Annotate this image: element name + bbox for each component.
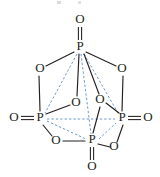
atom-label-o-right: O	[143, 109, 152, 124]
bond-ptop-ocl	[77, 54, 79, 96]
atom-label-p-right: P	[118, 109, 125, 124]
scan-artifact-mark-left	[57, 1, 61, 4]
figure-canvas: P P P P O O O O O O O O O O	[0, 0, 160, 177]
bond-our-pright	[122, 76, 123, 111]
bond-pfront-obr	[98, 144, 110, 147]
bond-ocl-pleft	[46, 105, 70, 114]
atom-label-o-center-left: O	[71, 94, 80, 109]
p4o10-structure-diagram: P P P P O O O O O O O O O O	[0, 0, 160, 177]
bond-oul-pleft	[39, 76, 40, 111]
atom-label-o-upper-left: O	[35, 60, 44, 75]
bond-ocr-pright	[106, 103, 119, 113]
scan-artifact-mark-right	[78, 1, 81, 4]
atom-label-p-left: P	[36, 109, 43, 124]
dashed-edge-front-right	[99, 123, 116, 139]
atom-label-o-left: O	[9, 109, 18, 124]
atom-label-p-top: P	[76, 38, 83, 53]
bond-ptop-our	[86, 52, 116, 66]
dashed-cage-edge-group	[45, 54, 118, 139]
atom-label-o-bottom-right: O	[109, 138, 118, 153]
atom-label-o-bottom-left: O	[51, 132, 60, 147]
bond-ptop-ocr	[84, 54, 99, 94]
atom-label-p-front: P	[88, 131, 95, 146]
atom-label-o-top: O	[75, 11, 84, 26]
dashed-edge-top-front	[81, 54, 91, 134]
atom-label-o-upper-right: O	[117, 60, 126, 75]
atom-label-group: P P P P O O O O O O O O O O	[9, 11, 152, 173]
bond-ocr-pfront	[93, 107, 100, 133]
atom-label-o-center-right: O	[95, 91, 104, 106]
bond-ptop-oul	[46, 52, 74, 66]
atom-label-o-front: O	[87, 158, 96, 173]
